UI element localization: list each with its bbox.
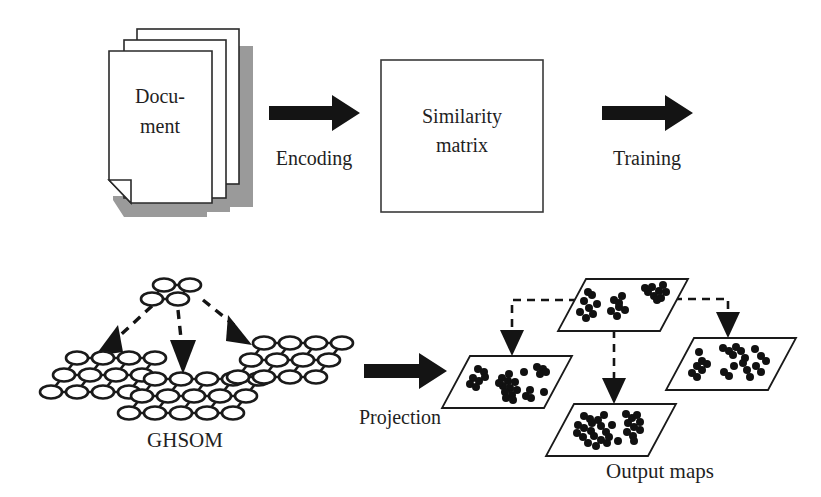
output-parent-map (558, 279, 688, 331)
output-child-map-center (546, 404, 676, 456)
document-stack-icon: Docu- ment (109, 29, 253, 217)
document-label-line2: ment (140, 115, 180, 137)
similarity-matrix-box: Similarity matrix (381, 60, 543, 212)
output-arrowhead-left (500, 330, 524, 356)
ghsom-connector-left (115, 306, 152, 340)
projection-label: Projection (359, 406, 441, 429)
ghsom-arrowhead-right (226, 315, 252, 345)
output-arrowhead-right (716, 312, 740, 338)
output-arrowhead-center (602, 378, 626, 404)
similarity-matrix-label-line2: matrix (436, 134, 488, 156)
training-label: Training (613, 147, 681, 170)
ghsom-label: GHSOM (147, 428, 223, 452)
output-child-plane-center (546, 404, 676, 456)
document-label-line1: Docu- (135, 85, 185, 107)
encoding-arrow (269, 95, 360, 131)
pipeline-figure: Docu- ment Encoding Similarity matrix Tr… (0, 0, 821, 497)
output-child-map-left (442, 356, 572, 408)
ghsom-root-map (141, 279, 201, 306)
ghsom-arrowhead-center (170, 340, 196, 374)
projection-arrow (364, 353, 447, 389)
training-arrow (602, 95, 693, 131)
output-parent-plane (558, 279, 688, 331)
output-child-map-right (666, 338, 796, 390)
encoding-label: Encoding (276, 147, 353, 170)
similarity-matrix-label-line1: Similarity (422, 105, 502, 128)
ghsom-connectors (95, 300, 252, 374)
diagram-canvas: Docu- ment Encoding Similarity matrix Tr… (0, 0, 821, 497)
output-maps-label: Output maps (606, 459, 714, 483)
